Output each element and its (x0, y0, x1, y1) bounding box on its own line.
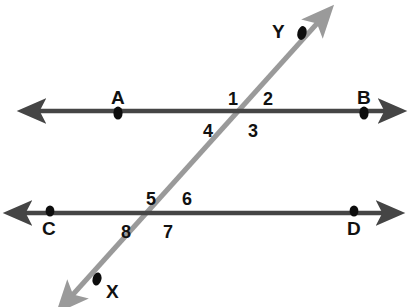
diagram-svg (0, 0, 410, 307)
transversal-line-xy (68, 18, 322, 300)
angle-label-2: 2 (263, 90, 273, 108)
point-dot-c (46, 205, 55, 216)
angle-label-8: 8 (121, 223, 131, 241)
point-label-a: A (111, 88, 125, 107)
angle-label-4: 4 (203, 122, 213, 140)
point-label-x: X (106, 282, 119, 301)
angle-label-1: 1 (228, 90, 238, 108)
angle-label-7: 7 (163, 223, 173, 241)
point-label-d: D (347, 219, 361, 238)
point-dot-b (359, 106, 368, 119)
angle-label-6: 6 (182, 190, 192, 208)
geometry-diagram: A B C D Y X 1 2 3 4 5 6 7 8 (0, 0, 410, 307)
point-label-y: Y (272, 22, 285, 41)
point-dot-d (350, 205, 359, 216)
angle-label-3: 3 (248, 122, 258, 140)
point-label-b: B (357, 88, 371, 107)
point-label-c: C (42, 219, 56, 238)
angle-label-5: 5 (146, 190, 156, 208)
point-dot-a (113, 106, 122, 119)
